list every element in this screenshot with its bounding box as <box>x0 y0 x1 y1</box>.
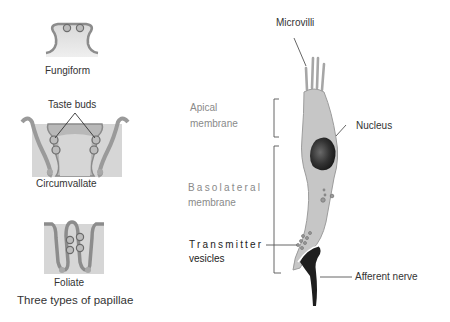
afferent-nerve-label: Afferent nerve <box>355 272 418 282</box>
taste-bud <box>90 146 98 154</box>
transmitter-vesicles-label-line2: vesicles <box>189 254 225 264</box>
microvilli-leader <box>294 38 306 66</box>
apical-membrane-label-line1: Apical <box>190 103 217 113</box>
nucleus-leader <box>336 125 346 136</box>
basolateral-membrane-label-line2: membrane <box>188 198 236 208</box>
foliate-label: Foliate <box>54 278 84 288</box>
taste-buds-label: Taste buds <box>48 100 96 110</box>
taste-bud <box>76 233 83 240</box>
taste-bud <box>63 24 70 31</box>
microvilli-label: Microvilli <box>276 18 314 28</box>
taste-bud <box>52 146 60 154</box>
apical-membrane-label-line2: membrane <box>190 119 238 129</box>
cell-body <box>293 89 338 270</box>
basolateral-membrane-bracket <box>274 146 281 273</box>
papillae-caption: Three types of papillae <box>17 295 133 307</box>
apical-membrane-bracket <box>274 99 279 137</box>
taste-bud <box>66 246 73 253</box>
circumvallate-papilla <box>20 112 128 178</box>
taste-papillae-diagram: Fungiform Taste buds Circumvallate Folia… <box>0 0 450 322</box>
taste-bud <box>92 136 100 144</box>
transmitter-vesicles-label-line1: Transmitter <box>189 240 263 250</box>
taste-bud <box>76 244 83 251</box>
nucleus-label: Nucleus <box>356 121 392 131</box>
fungiform-label: Fungiform <box>45 66 90 76</box>
taste-bud <box>50 136 58 144</box>
taste-receptor-cell <box>293 58 338 306</box>
fungiform-papilla <box>46 24 98 57</box>
taste-bud <box>76 24 83 31</box>
basolateral-membrane-label-line1: Basolateral <box>188 183 262 193</box>
taste-bud <box>66 236 73 243</box>
circumvallate-label: Circumvallate <box>36 179 97 189</box>
microvilli <box>306 58 324 90</box>
foliate-papilla <box>44 222 104 274</box>
fungiform-tissue <box>46 24 98 57</box>
